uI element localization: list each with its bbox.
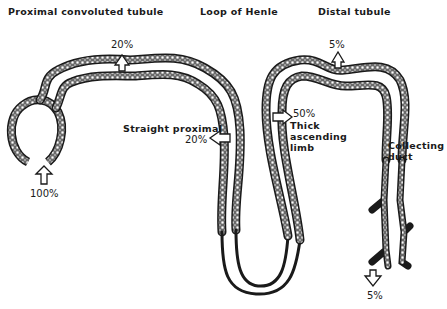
pct-proximal-convoluted: 20% [111,39,133,50]
collecting-duct [372,160,410,266]
header-loop-of-henle: Loop of Henle [200,6,278,17]
label-straight-proximal: Straight proximal [123,123,222,134]
proximal-convoluted-tubule [40,58,240,232]
label-thick-ascending-limb: Thick ascending limb [290,120,347,153]
pct-collecting-duct-output: 5% [367,290,383,301]
pct-distal-tubule: 5% [329,39,345,50]
label-line: Thick [290,120,347,131]
pct-glomerulus-input: 100% [30,188,59,199]
arrow-down-icon-output [365,270,381,286]
arrow-up-icon-input [36,166,52,184]
label-line: limb [290,142,347,153]
header-proximal-convoluted-tubule: Proximal convoluted tubule [8,6,164,17]
label-line: duct [388,151,444,162]
pct-thick-ascending-limb: 50% [293,108,315,119]
label-collecting-duct: Collecting duct [388,140,444,162]
nephron-diagram [0,0,447,309]
label-line: ascending [290,131,347,142]
label-line: Collecting [388,140,444,151]
header-distal-tubule: Distal tubule [318,6,391,17]
pct-straight-proximal: 20% [185,134,207,145]
